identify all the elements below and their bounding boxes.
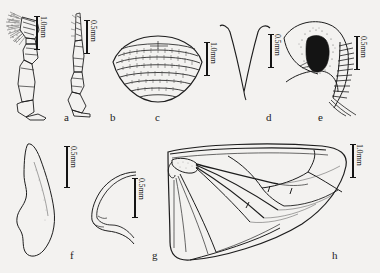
panel-b-drawing bbox=[60, 10, 106, 118]
panel-a: 1.0mm bbox=[2, 8, 58, 120]
panel-letter-d: d bbox=[266, 112, 272, 123]
panel-c bbox=[110, 32, 205, 110]
scale-label-g: 0.5mm bbox=[137, 178, 146, 199]
panel-letter-c: c bbox=[155, 112, 160, 123]
scale-label-d-left: 1.0mm bbox=[209, 42, 218, 63]
panel-f: 0.5mm bbox=[8, 140, 78, 258]
scale-label-f: 0.5mm bbox=[69, 146, 78, 167]
scale-label-b: 0.5mm bbox=[89, 20, 98, 41]
panel-g: 0.5mm bbox=[88, 166, 150, 250]
panel-h: 1.0mm bbox=[150, 134, 365, 266]
panel-b: 0.5mm bbox=[60, 10, 106, 118]
panel-letter-e: e bbox=[318, 112, 323, 123]
figure-plate: 1.0mm a 0.5mm b bbox=[0, 0, 380, 273]
panel-letter-h: h bbox=[332, 250, 338, 261]
panel-c-drawing bbox=[110, 32, 205, 110]
panel-letter-b: b bbox=[110, 112, 116, 123]
scale-label-h: 1.0mm bbox=[355, 144, 364, 165]
scale-label-a: 1.0mm bbox=[39, 16, 48, 37]
panel-letter-f: f bbox=[70, 250, 74, 261]
panel-h-drawing bbox=[150, 134, 365, 266]
scale-label-e: 0.5mm bbox=[359, 36, 368, 57]
panel-e: 0.5mm bbox=[278, 16, 378, 116]
panel-e-drawing bbox=[278, 16, 378, 116]
panel-d: 1.0mm 0.5mm bbox=[208, 20, 280, 110]
panel-a-drawing bbox=[2, 8, 58, 120]
